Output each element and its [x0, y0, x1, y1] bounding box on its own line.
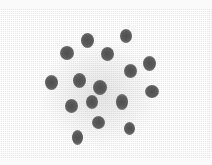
dot: [124, 122, 135, 135]
dot: [60, 46, 74, 60]
dot: [101, 47, 114, 61]
dot: [143, 56, 156, 71]
dot: [116, 94, 128, 110]
dot: [65, 99, 78, 113]
dot: [120, 29, 132, 43]
dot: [72, 130, 83, 145]
dot: [73, 73, 86, 88]
dot: [45, 75, 58, 90]
dot: [81, 33, 94, 48]
dot: [92, 116, 105, 129]
dot: [93, 80, 107, 95]
photo: [0, 0, 212, 165]
dot: [124, 64, 137, 78]
dot: [145, 85, 159, 98]
dot: [86, 95, 98, 109]
